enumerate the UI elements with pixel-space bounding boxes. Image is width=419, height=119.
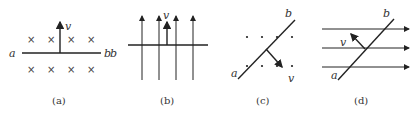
svg-text:×: × — [67, 34, 75, 45]
caption-a: (a) — [52, 95, 66, 106]
caption-b: (b) — [160, 95, 174, 106]
panel-a: × × × × × × × × v a b (a) — [9, 20, 111, 106]
svg-text:×: × — [27, 34, 35, 45]
label-v: v — [163, 9, 170, 22]
field-dots — [246, 36, 293, 67]
label-v: v — [340, 36, 347, 49]
svg-text:×: × — [47, 64, 55, 75]
diagram-canvas: × × × × × × × × v a b (a) b v (b) b — [0, 0, 419, 119]
svg-text:×: × — [47, 34, 55, 45]
label-a: a — [9, 47, 16, 60]
label-a: a — [231, 67, 238, 80]
svg-text:×: × — [87, 64, 95, 75]
caption-d: (d) — [354, 95, 368, 106]
caption-c: (c) — [256, 95, 270, 106]
label-b: b — [285, 7, 292, 20]
panel-c: b a v (c) — [231, 7, 295, 106]
label-a: a — [331, 69, 338, 82]
svg-text:×: × — [27, 64, 35, 75]
conductor-rod — [338, 19, 394, 80]
field-crosses: × × × × × × × × — [27, 34, 95, 75]
label-v: v — [65, 20, 72, 33]
label-b: b — [383, 7, 390, 20]
svg-text:×: × — [87, 34, 95, 45]
label-v: v — [288, 72, 295, 85]
panel-b: b v (b) — [110, 9, 208, 106]
velocity-arrow — [351, 34, 365, 49]
velocity-arrow — [266, 49, 282, 67]
svg-text:×: × — [67, 64, 75, 75]
panel-d: b v a (d) — [322, 7, 409, 106]
label-b: b — [110, 47, 117, 60]
